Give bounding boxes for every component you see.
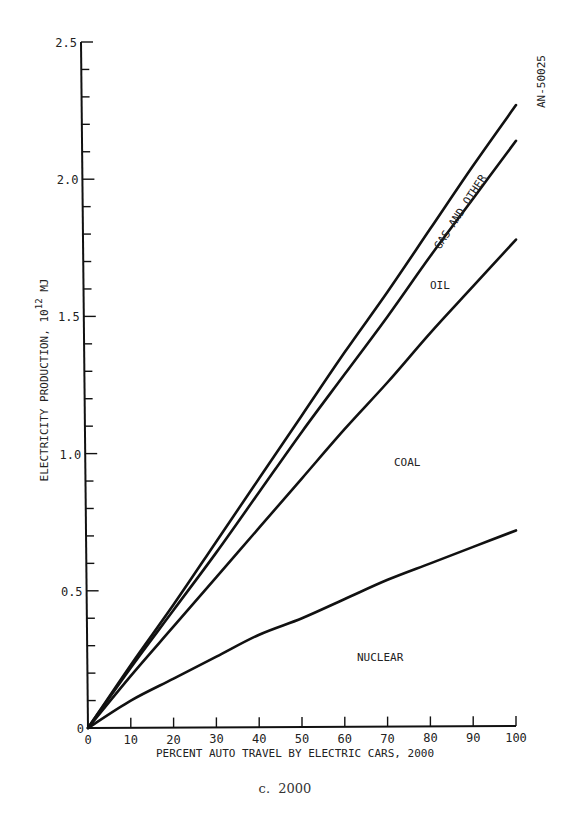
x-tick-label: 0 bbox=[84, 733, 91, 747]
x-tick-label: 40 bbox=[252, 732, 266, 746]
y-tick-label: 2.0 bbox=[57, 173, 79, 187]
y-tick-label: 0 bbox=[77, 722, 84, 736]
x-tick-label: 80 bbox=[423, 731, 437, 745]
labels: GAS AND OTHER OIL COAL NUCLEAR AN-50025 … bbox=[34, 55, 548, 796]
region-label-oil: OIL bbox=[430, 279, 450, 292]
series-line-0 bbox=[88, 105, 516, 728]
x-tick-label: 30 bbox=[209, 732, 223, 746]
y-axis-title-base: ELECTRICITY PRODUCTION, 10 bbox=[38, 309, 51, 481]
y-tick-label: 2.5 bbox=[55, 36, 77, 50]
x-tick-label: 100 bbox=[505, 731, 527, 745]
x-axis-title: PERCENT AUTO TRAVEL BY ELECTRIC CARS, 20… bbox=[156, 747, 434, 760]
x-tick-label: 60 bbox=[338, 732, 352, 746]
y-tick-label: 1.5 bbox=[58, 310, 80, 324]
series-line-2 bbox=[88, 240, 516, 728]
y-axis-title-exponent: 12 bbox=[34, 298, 44, 309]
x-tick-label: 70 bbox=[380, 732, 394, 746]
x-tick-label: 20 bbox=[166, 733, 180, 747]
y-axis-title-unit: MJ bbox=[38, 279, 51, 299]
x-tick-label: 10 bbox=[124, 733, 138, 747]
series-line-3 bbox=[88, 530, 516, 728]
y-tick-label: 0.5 bbox=[61, 585, 83, 599]
region-label-nuclear: NUCLEAR bbox=[357, 651, 404, 664]
x-tick-label: 90 bbox=[466, 731, 480, 745]
y-tick-label: 1.0 bbox=[60, 448, 82, 462]
y-axis-line bbox=[81, 42, 88, 728]
figure-caption: c. 2000 bbox=[259, 781, 312, 796]
region-label-coal: COAL bbox=[394, 456, 421, 469]
y-axis-title: ELECTRICITY PRODUCTION, 1012 MJ bbox=[34, 279, 51, 482]
figure-id: AN-50025 bbox=[535, 55, 548, 108]
chart: 00.51.01.52.02.50102030405060708090100 G… bbox=[0, 0, 567, 820]
x-tick-label: 50 bbox=[295, 732, 309, 746]
axes: 00.51.01.52.02.50102030405060708090100 bbox=[55, 36, 527, 747]
series-lines bbox=[88, 105, 516, 728]
